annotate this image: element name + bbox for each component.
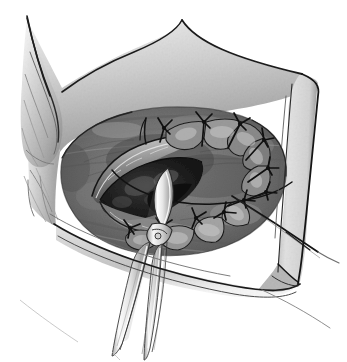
forceps-pivot-screw bbox=[155, 233, 161, 239]
illustration-canvas bbox=[0, 0, 347, 362]
surgical-illustration-figure: Surgical field illustration bbox=[0, 0, 347, 362]
